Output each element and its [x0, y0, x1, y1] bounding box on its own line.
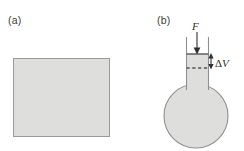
- volume-symbol: V: [222, 57, 229, 69]
- figure-container: (a) (b): [0, 0, 244, 151]
- flask-diagram: [0, 0, 244, 151]
- delta-volume-double-arrow: [208, 53, 213, 70]
- force-label: F: [192, 20, 199, 32]
- delta-volume-arrow-head-up: [208, 53, 213, 58]
- delta-volume-arrow-head-down: [208, 64, 213, 69]
- downward-force-arrow: [194, 32, 201, 55]
- delta-volume-label: ΔV: [215, 57, 229, 69]
- neck-bulb-junction: [188, 84, 208, 102]
